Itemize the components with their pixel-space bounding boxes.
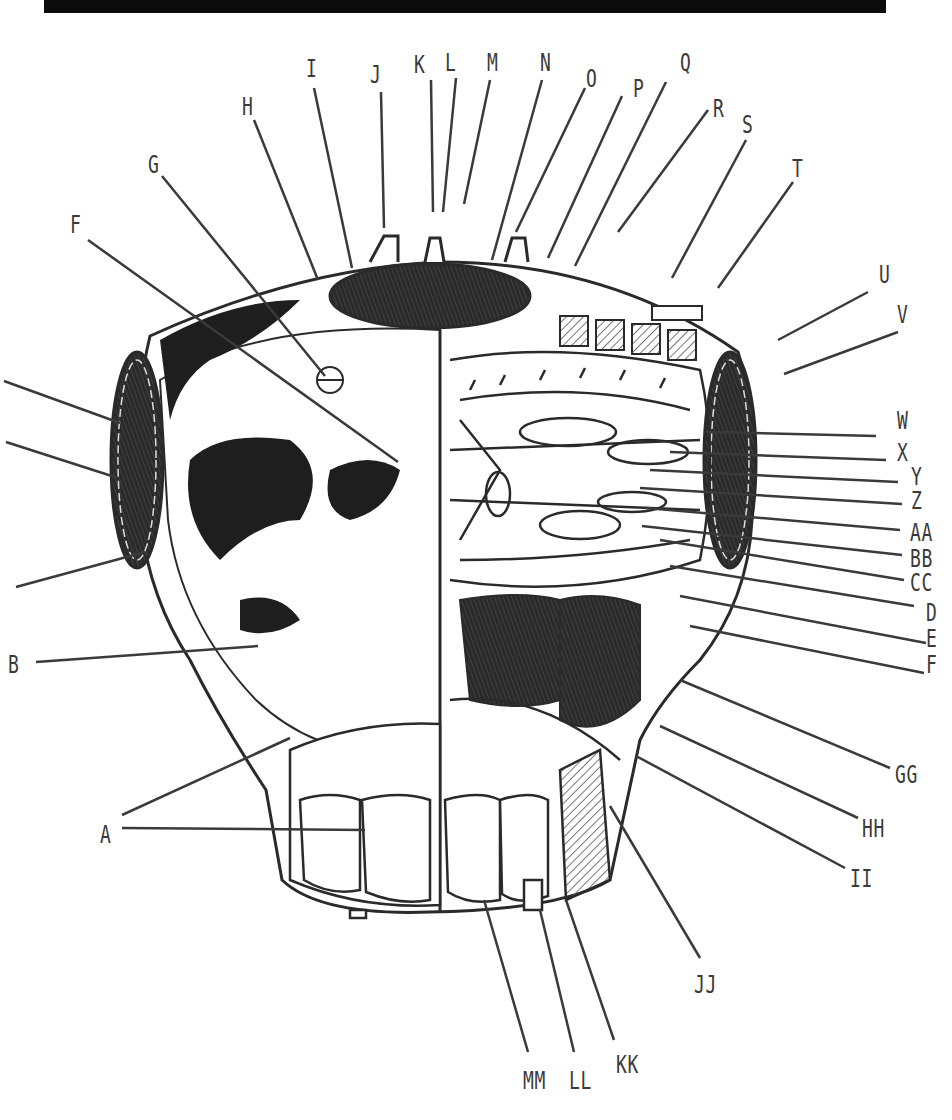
callout-label-v: V [897,302,909,327]
callout-label-l: L [445,50,457,75]
left-engine-pod [111,352,163,568]
leader-line-n [492,80,542,260]
leader-line-u [778,292,868,340]
leader-line-j [381,92,384,228]
leader-line-hh [660,726,858,818]
leader-line-v [784,332,898,374]
callout-label-gg: GG [895,762,918,787]
callout-label-r: R [713,96,725,121]
callout-label-ff: F [926,652,938,677]
callout-label-w: W [897,408,909,433]
leader-line-p [548,96,622,258]
leader-line-ii [636,756,845,868]
callout-label-dd: D [926,600,938,625]
top-cylinder [330,264,530,328]
leader-line-ff [690,626,924,673]
callout-label-a: A [100,822,112,847]
leader-line-e [4,381,120,423]
callout-label-ll: LL [569,1068,592,1093]
callout-label-aa: AA [910,520,933,545]
leader-line-h [254,120,318,280]
callout-label-jj: JJ [694,972,717,997]
spacecraft-cutaway-diagram [0,0,952,1120]
callout-label-mm: MM [523,1068,546,1093]
callout-label-o: O [586,66,598,91]
leader-line-m [464,80,490,204]
callout-label-ii: II [850,866,873,891]
top-fins [370,236,528,262]
leader-line-i [314,88,352,268]
callout-label-i: I [306,56,318,81]
callout-label-s: S [742,112,754,137]
leader-line-kk [566,900,614,1040]
callout-label-b: B [8,652,20,677]
leader-line-s [672,140,746,278]
callout-label-hh: HH [862,816,885,841]
leader-line-gg [680,680,890,768]
callout-label-m: M [487,50,499,75]
leader-line-c [16,552,145,587]
leader-line-ll [540,910,574,1052]
callout-label-cc: CC [910,570,933,595]
callout-label-n: N [540,50,552,75]
callout-label-h: H [242,94,254,119]
callout-label-k: K [414,52,426,77]
leader-line-k [431,80,433,212]
callout-label-f: F [70,212,82,237]
leader-line-d [6,442,118,478]
callout-label-g: G [148,152,160,177]
leader-line-q [575,82,666,266]
callout-label-t: T [792,156,804,181]
leader-line-o [516,88,585,232]
callout-label-u: U [879,262,891,287]
callout-label-ee: E [926,626,938,651]
callout-label-q: Q [680,50,692,75]
callout-label-kk: KK [616,1052,639,1077]
leader-line-l [443,78,456,212]
leader-line-t [718,182,793,288]
callout-label-p: P [633,76,645,101]
callout-label-z: Z [911,488,923,513]
leader-line-r [618,110,708,232]
callout-label-j: J [370,62,382,87]
leader-line-mm [484,900,528,1052]
callout-label-x: X [897,440,909,465]
leader-line-jj [610,806,700,958]
